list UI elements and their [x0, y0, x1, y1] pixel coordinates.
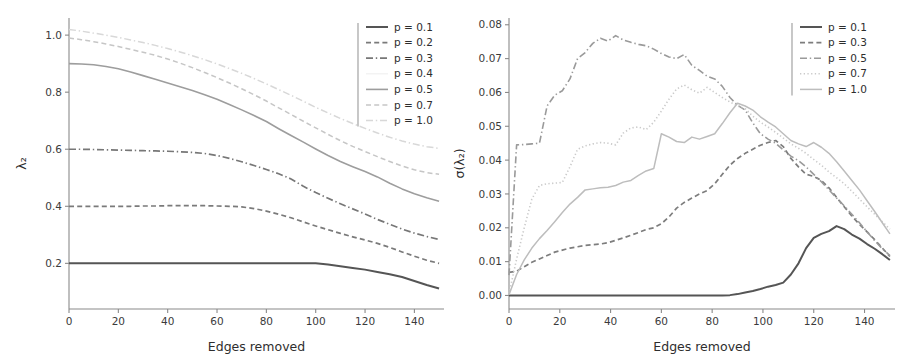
series-line [509, 140, 890, 272]
x-tick-label: 20 [112, 315, 125, 327]
chart-svg: 0.20.40.60.81.0020406080100120140Edges r… [0, 0, 452, 357]
figure-two-panel-chart: 0.20.40.60.81.0020406080100120140Edges r… [0, 0, 905, 357]
x-tick-label: 100 [753, 315, 773, 327]
legend-label: p = 0.1 [394, 21, 433, 33]
legend-label: p = 0.1 [828, 21, 867, 33]
y-tick-label: 0.00 [479, 289, 502, 301]
x-tick-label: 40 [161, 315, 174, 327]
x-tick-label: 40 [604, 315, 617, 327]
legend-label: p = 0.7 [394, 99, 433, 111]
legend-label: p = 0.2 [394, 36, 433, 48]
series-line [69, 64, 439, 202]
x-tick-label: 120 [804, 315, 824, 327]
legend: p = 0.1p = 0.3p = 0.5p = 0.7p = 1.0 [792, 21, 867, 96]
y-tick-label: 0.06 [479, 86, 503, 98]
x-tick-label: 140 [404, 315, 424, 327]
x-tick-label: 0 [506, 315, 513, 327]
chart-panel-sigma-lambda2: 0.000.010.020.030.040.050.060.070.080204… [452, 0, 905, 357]
series-line [509, 103, 890, 295]
y-tick-label: 0.05 [479, 120, 502, 132]
series-line [69, 206, 439, 264]
x-tick-label: 60 [210, 315, 223, 327]
y-tick-label: 0.03 [479, 188, 502, 200]
y-axis-title: σ(λ₂) [452, 148, 467, 178]
y-tick-label: 0.07 [479, 52, 502, 64]
axes-spines [69, 18, 444, 309]
legend-label: p = 0.5 [394, 83, 433, 95]
legend-label: p = 0.4 [394, 67, 433, 79]
y-axis-ticks: 0.000.010.020.030.040.050.060.070.08 [479, 18, 509, 301]
legend-label: p = 0.7 [828, 67, 867, 79]
y-tick-label: 0.02 [479, 221, 502, 233]
y-tick-label: 0.6 [45, 143, 62, 155]
y-tick-label: 0.04 [479, 154, 503, 166]
x-tick-label: 80 [260, 315, 273, 327]
x-axis-ticks: 020406080100120140 [506, 309, 875, 327]
y-tick-label: 0.4 [45, 200, 62, 212]
legend-label: p = 0.5 [828, 52, 867, 64]
series-line [509, 85, 890, 294]
legend-label: p = 0.3 [394, 52, 433, 64]
series-line [509, 226, 890, 295]
legend-label: p = 0.3 [828, 36, 867, 48]
y-tick-label: 0.01 [479, 255, 502, 267]
x-axis-title: Edges removed [208, 339, 305, 354]
x-tick-label: 80 [705, 315, 718, 327]
y-axis-title: λ₂ [14, 157, 29, 169]
x-tick-label: 140 [855, 315, 875, 327]
y-axis-ticks: 0.20.40.60.81.0 [45, 29, 69, 269]
y-tick-label: 0.8 [45, 86, 62, 98]
legend-label: p = 1.0 [394, 114, 433, 126]
chart-svg: 0.000.010.020.030.040.050.060.070.080204… [452, 0, 905, 357]
series-line [69, 263, 439, 288]
x-tick-label: 60 [655, 315, 668, 327]
y-tick-label: 1.0 [45, 29, 62, 41]
x-tick-label: 20 [553, 315, 566, 327]
x-tick-label: 0 [66, 315, 73, 327]
x-tick-label: 100 [306, 315, 326, 327]
chart-panel-lambda2: 0.20.40.60.81.0020406080100120140Edges r… [0, 0, 452, 357]
x-axis-title: Edges removed [653, 339, 750, 354]
legend-label: p = 1.0 [828, 83, 867, 95]
series-line [69, 149, 439, 239]
x-axis-ticks: 020406080100120140 [66, 309, 425, 327]
legend: p = 0.1p = 0.2p = 0.3p = 0.4p = 0.5p = 0… [358, 21, 433, 127]
series-group [69, 29, 439, 288]
y-tick-label: 0.08 [479, 18, 502, 30]
y-tick-label: 0.2 [45, 257, 62, 269]
x-tick-label: 120 [355, 315, 375, 327]
